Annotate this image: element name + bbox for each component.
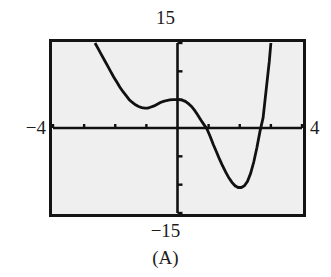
calculator-graph-figure: 15 −4 4 −15 (A) xyxy=(0,0,331,277)
x-min-label: −4 xyxy=(10,118,46,137)
calculator-screen xyxy=(49,39,306,217)
figure-caption: (A) xyxy=(0,248,331,267)
y-max-label: 15 xyxy=(0,8,331,27)
x-max-label: 4 xyxy=(310,118,331,137)
y-min-label: −15 xyxy=(0,221,331,240)
plot-svg xyxy=(49,39,306,217)
